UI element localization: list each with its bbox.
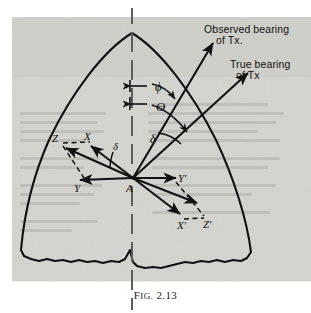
observed-bearing-label-line2: of Tx. bbox=[216, 34, 243, 46]
axis-label-x: X bbox=[83, 130, 92, 142]
caption-smallcaps: IG. bbox=[140, 291, 153, 301]
phi-angle-label: ϕ bbox=[155, 79, 162, 94]
figure-container: Observed bearing of Tx. True bearing of … bbox=[0, 0, 311, 313]
axis-label-z-prime: Z′ bbox=[203, 218, 212, 230]
axis-label-y-prime: Y′ bbox=[178, 172, 187, 184]
true-bearing-label-line2: of Tx bbox=[236, 69, 260, 81]
origin-point bbox=[131, 176, 135, 180]
caption-number: 2.13 bbox=[156, 289, 177, 301]
axis-label-z: Z bbox=[52, 132, 59, 144]
theta-angle-label: ϴ bbox=[156, 99, 166, 114]
axis-label-x-prime: X′ bbox=[176, 219, 187, 231]
figure-caption: FIG. 2.13 bbox=[0, 289, 311, 301]
delta-angle-upper-label: δ bbox=[150, 132, 156, 146]
origin-label-a: A bbox=[125, 182, 133, 194]
figure-diagram: Observed bearing of Tx. True bearing of … bbox=[0, 0, 311, 313]
